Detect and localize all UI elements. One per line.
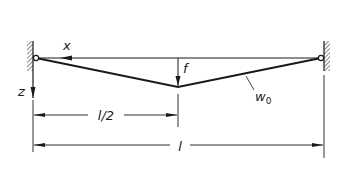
right-support <box>324 41 330 71</box>
x-axis-label: x <box>62 38 71 53</box>
beam-diagram: x z f w0 l/2 l <box>0 0 347 180</box>
left-support <box>27 41 33 71</box>
span-label: l <box>178 139 182 154</box>
left-hinge <box>33 55 38 60</box>
deflection-label: f <box>183 61 190 76</box>
x-axis-arrow <box>60 56 72 61</box>
w0-leader <box>246 76 254 90</box>
deflection-arrow <box>176 58 181 86</box>
right-hinge <box>318 55 323 60</box>
z-axis-arrow <box>31 71 36 98</box>
w0-label: w0 <box>255 89 272 106</box>
z-axis-label: z <box>17 84 26 99</box>
half-span-label: l/2 <box>98 108 114 123</box>
